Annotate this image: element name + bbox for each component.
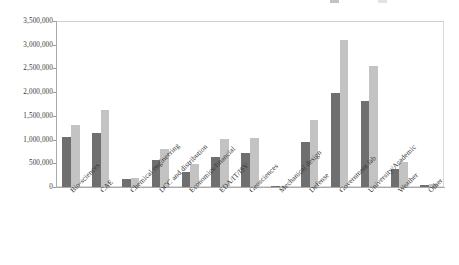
y-axis-tick-label: 3,000,000 (23, 41, 53, 49)
y-axis-tick-label: 3,500,000 (23, 17, 53, 25)
bar-chart: 0500,0001,000,0001,500,0002,000,0002,500… (0, 0, 459, 265)
bar-group (62, 21, 79, 187)
y-axis-tick-label: 1,000,000 (23, 136, 53, 144)
bar-series-1 (92, 133, 101, 187)
x-axis-labels: Bio-sciencesCAEChemical engineeringDCC a… (0, 188, 459, 265)
bar-series-2 (101, 110, 110, 187)
bar-group (122, 21, 139, 187)
bar-series-2 (369, 66, 378, 187)
bar-series-2 (340, 40, 349, 187)
legend-swatch-series-2 (378, 0, 387, 3)
legend-swatch-series-1 (330, 0, 339, 3)
bars-layer (56, 21, 444, 187)
y-axis-tick-label: 2,000,000 (23, 88, 53, 96)
y-axis-tick-label: 2,500,000 (23, 64, 53, 72)
bar-series-1 (331, 93, 340, 187)
legend-cropped (0, 0, 459, 7)
y-axis-tick-label: 500,000 (29, 159, 53, 167)
bar-group (331, 21, 348, 187)
y-axis-tick-label: 1,500,000 (23, 112, 53, 120)
bar-series-1 (62, 137, 71, 187)
bar-group (420, 21, 437, 187)
